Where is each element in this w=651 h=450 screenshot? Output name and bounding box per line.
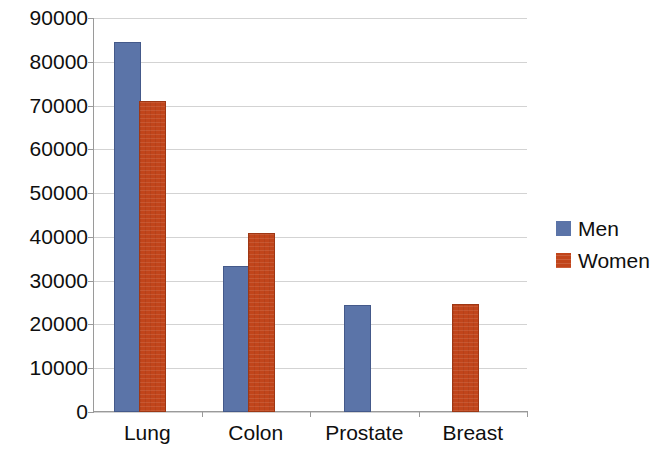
y-axis-labels: 0100002000030000400005000060000700008000… xyxy=(0,18,88,412)
gridline xyxy=(93,62,527,63)
y-axis-tick-label: 80000 xyxy=(2,51,88,72)
legend-swatch-icon xyxy=(556,221,571,236)
y-axis-tick xyxy=(88,368,94,369)
legend-label: Women xyxy=(578,250,650,271)
gridline xyxy=(93,18,527,19)
y-axis-tick xyxy=(88,324,94,325)
y-axis-tick-label: 50000 xyxy=(2,182,88,203)
bar-breast-women xyxy=(452,304,479,412)
y-axis-tick xyxy=(88,412,94,413)
y-axis-tick xyxy=(88,106,94,107)
y-axis-tick-label: 90000 xyxy=(2,7,88,28)
x-axis-labels: LungColonProstateBreast xyxy=(93,420,527,450)
y-axis-tick-label: 40000 xyxy=(2,226,88,247)
y-axis-tick xyxy=(88,193,94,194)
bar-colon-men xyxy=(223,266,250,412)
x-axis-tick xyxy=(310,411,311,417)
x-axis-tick xyxy=(419,411,420,417)
y-axis-tick-label: 70000 xyxy=(2,95,88,116)
y-axis-tick xyxy=(88,149,94,150)
y-axis-tick xyxy=(88,281,94,282)
y-axis-tick xyxy=(88,18,94,19)
bar-lung-men xyxy=(114,42,141,412)
bar-chart: 0100002000030000400005000060000700008000… xyxy=(0,0,651,450)
plot-area xyxy=(93,18,527,412)
x-axis-tick xyxy=(202,411,203,417)
bar-lung-women xyxy=(139,101,166,412)
legend-item-men: Men xyxy=(556,212,651,244)
y-axis-tick xyxy=(88,62,94,63)
y-axis-tick-label: 60000 xyxy=(2,138,88,159)
y-axis-tick-label: 0 xyxy=(2,401,88,422)
bar-colon-women xyxy=(248,233,275,412)
y-axis-tick-label: 20000 xyxy=(2,313,88,334)
x-axis-tick xyxy=(527,411,528,417)
y-axis-line xyxy=(93,18,94,412)
bar-prostate-men xyxy=(344,305,371,412)
legend-label: Men xyxy=(578,218,619,239)
y-axis-tick-label: 30000 xyxy=(2,270,88,291)
y-axis-tick-label: 10000 xyxy=(2,357,88,378)
legend-item-women: Women xyxy=(556,244,651,276)
legend: MenWomen xyxy=(556,212,651,276)
legend-swatch-icon xyxy=(556,253,571,268)
x-axis-label-breast: Breast xyxy=(409,420,538,446)
y-axis-tick xyxy=(88,237,94,238)
